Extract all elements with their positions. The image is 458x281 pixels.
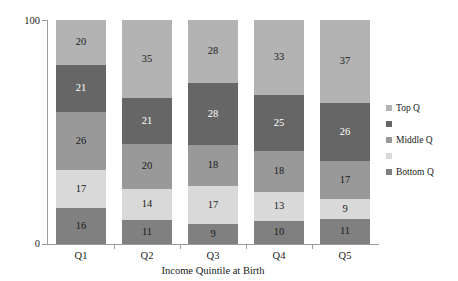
bar-segment: 9 [188,224,238,244]
x-axis-label-q1: Q1 [56,250,106,261]
legend-swatch-icon [386,121,392,127]
legend-swatch-icon [386,105,392,111]
bar-segment: 18 [254,151,304,192]
bar-segment: 26 [56,112,106,170]
legend-item[interactable]: Top Q [386,100,456,116]
legend-item[interactable]: Middle Q [386,132,456,148]
bar-segment: 20 [56,20,106,65]
x-axis-label-q3: Q3 [188,250,238,261]
x-axis-tick [312,244,313,249]
legend-item[interactable] [386,116,456,132]
bar-stack: 282818179 [188,20,238,244]
chart-legend: Top QMiddle QBottom Q [386,100,456,180]
bar-segment: 11 [320,219,370,244]
x-axis-tick [114,244,115,249]
x-axis-title: Income Quintile at Birth [48,265,378,276]
x-axis-label-q5: Q5 [320,250,370,261]
bar-segment: 25 [254,95,304,152]
bar-stack: 2021261716 [56,20,106,244]
bar-segment: 18 [188,145,238,185]
bar-segment: 28 [188,20,238,83]
y-axis-label-0: 0 [10,238,40,249]
x-axis-label-q2: Q2 [122,250,172,261]
bar-group-q1: 2021261716 [56,20,106,244]
bar-segment: 17 [56,170,106,208]
bar-segment: 21 [122,98,172,145]
bar-group-q5: 372617911 [320,20,370,244]
bar-segment: 21 [56,65,106,112]
x-axis-tick [246,244,247,249]
legend-item[interactable] [386,148,456,164]
legend-swatch-icon [386,137,392,143]
bar-segment: 14 [122,189,172,220]
bar-segment: 17 [188,186,238,224]
bar-segment: 26 [320,103,370,161]
bar-segment: 35 [122,20,172,98]
bar-segment: 28 [188,83,238,146]
bar-segment: 17 [320,161,370,199]
bar-segment: 20 [122,144,172,188]
x-axis-label-q4: Q4 [254,250,304,261]
bar-segment: 11 [122,220,172,244]
bar-stack: 3325181310 [254,20,304,244]
x-axis-line [47,244,379,245]
bar-segment: 9 [320,199,370,219]
legend-label: Middle Q [396,135,433,145]
bar-group-q3: 282818179 [188,20,238,244]
bar-segment: 16 [56,208,106,244]
y-axis-tick-100 [42,20,47,21]
stacked-bar-chart: 100 0 2021261716352120141128281817933251… [0,0,458,281]
y-axis-label-100: 100 [10,15,40,26]
bar-stack: 372617911 [320,20,370,244]
legend-label: Bottom Q [396,167,434,177]
bar-stack: 3521201411 [122,20,172,244]
bar-segment: 10 [254,221,304,244]
bar-group-q4: 3325181310 [254,20,304,244]
bar-segment: 37 [320,20,370,103]
bar-segment: 13 [254,192,304,221]
x-axis-tick [180,244,181,249]
plot-area: 2021261716352120141128281817933251813103… [48,20,378,244]
bar-segment: 33 [254,20,304,95]
legend-label: Top Q [396,103,420,113]
legend-item[interactable]: Bottom Q [386,164,456,180]
legend-swatch-icon [386,169,392,175]
legend-swatch-icon [386,153,392,159]
bar-group-q2: 3521201411 [122,20,172,244]
